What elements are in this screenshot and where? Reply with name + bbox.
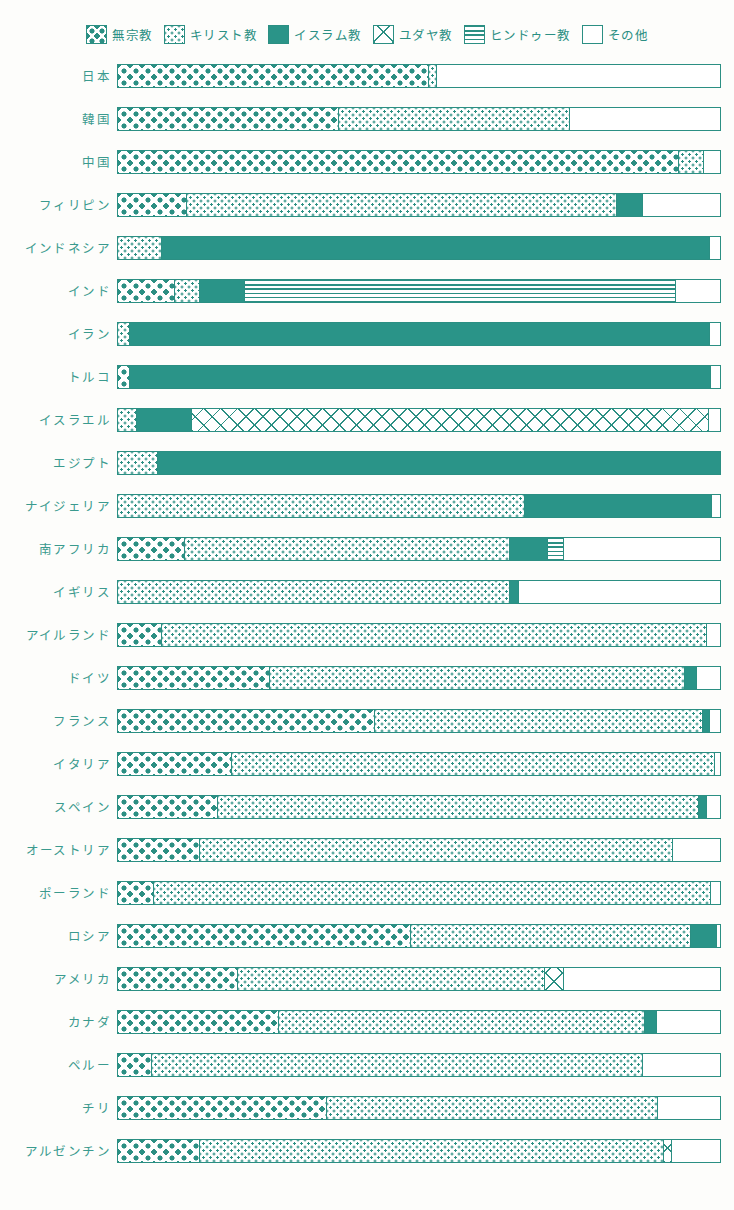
bar-segment-other [671, 1140, 720, 1162]
chart-row: オーストリア [0, 828, 734, 871]
country-label: 日本 [0, 66, 117, 85]
chart-row: エジプト [0, 441, 734, 484]
bar-segment-christian [118, 452, 157, 474]
legend-label: その他 [608, 25, 649, 44]
bar-segment-none [118, 753, 231, 775]
bar-segment-christian [410, 925, 690, 947]
country-label: 南アフリカ [0, 539, 117, 558]
bar-segment-christian [151, 1054, 642, 1076]
chart-row: 南アフリカ [0, 527, 734, 570]
bar-segment-islam [684, 667, 696, 689]
country-label: イラン [0, 324, 117, 343]
bar-segment-christian [118, 409, 136, 431]
bar-segment-islam [524, 495, 711, 517]
chart-row: アイルランド [0, 613, 734, 656]
bar-segment-other [657, 1097, 720, 1119]
bar-segment-none [118, 839, 199, 861]
bar-segment-none [118, 108, 338, 130]
chart-row: 中国 [0, 140, 734, 183]
bar-segment-none [118, 624, 161, 646]
legend-label: ヒンドゥー教 [490, 25, 571, 44]
bar-segment-other [708, 409, 720, 431]
bar-segment-islam [616, 194, 642, 216]
bar-segment-other [706, 624, 720, 646]
horizontal-stripe-swatch [464, 25, 485, 44]
bar-segment-none [118, 1140, 199, 1162]
bar-segment-jewish [191, 409, 708, 431]
stacked-bar [117, 967, 721, 991]
legend-item-hindu: ヒンドゥー教 [464, 25, 571, 44]
chart-row: ペルー [0, 1043, 734, 1086]
chart-row: アルゼンチン [0, 1129, 734, 1172]
stacked-bar [117, 236, 721, 260]
bar-segment-christian [278, 1011, 644, 1033]
bar-segment-christian [231, 753, 714, 775]
stacked-bar [117, 408, 721, 432]
bar-segment-other [714, 753, 720, 775]
chart-row: イギリス [0, 570, 734, 613]
bar-segment-christian [184, 538, 509, 560]
bar-segment-other [675, 280, 720, 302]
bar-segment-islam [136, 409, 191, 431]
chart-row: イタリア [0, 742, 734, 785]
bar-segment-christian [338, 108, 570, 130]
bar-segment-other [642, 1054, 720, 1076]
country-label: ロシア [0, 926, 117, 945]
bar-segment-other [710, 366, 720, 388]
bar-segment-none [118, 366, 129, 388]
chart-row: イスラエル [0, 398, 734, 441]
legend-item-jewish: ユダヤ教 [373, 25, 453, 44]
bar-segment-none [118, 710, 374, 732]
bar-segment-none [118, 538, 184, 560]
stacked-bar [117, 1010, 721, 1034]
stacked-bar [117, 881, 721, 905]
legend-item-none: 無宗教 [86, 25, 153, 44]
bar-segment-none [118, 1011, 278, 1033]
country-label: フィリピン [0, 195, 117, 214]
chart-row: 韓国 [0, 97, 734, 140]
bar-segment-other [706, 796, 720, 818]
bar-segment-christian [118, 495, 524, 517]
bar-segment-islam [199, 280, 244, 302]
bar-segment-hindu [244, 280, 674, 302]
bar-segment-christian [217, 796, 697, 818]
country-label: イタリア [0, 754, 117, 773]
stacked-bar [117, 193, 721, 217]
country-label: ドイツ [0, 668, 117, 687]
stacked-bar [117, 365, 721, 389]
stacked-bar [117, 709, 721, 733]
bar-segment-other [703, 151, 720, 173]
country-label: アルゼンチン [0, 1141, 117, 1160]
bar-segment-other [711, 495, 720, 517]
country-label: チリ [0, 1098, 117, 1117]
stacked-bar [117, 623, 721, 647]
empty-swatch [582, 25, 603, 44]
country-label: ポーランド [0, 883, 117, 902]
bar-segment-islam [509, 581, 518, 603]
stacked-bar-chart: 日本韓国中国フィリピンインドネシアインドイラントルコイスラエルエジプトナイジェリ… [0, 52, 734, 1172]
bar-segment-islam [509, 538, 546, 560]
bar-segment-christian [374, 710, 702, 732]
country-label: イスラエル [0, 410, 117, 429]
stacked-bar [117, 924, 721, 948]
legend-label: キリスト教 [190, 25, 258, 44]
stacked-bar [117, 1053, 721, 1077]
country-label: スペイン [0, 797, 117, 816]
legend-label: ユダヤ教 [399, 25, 453, 44]
stacked-bar [117, 322, 721, 346]
stacked-bar [117, 64, 721, 88]
legend-item-other: その他 [582, 25, 649, 44]
chart-row: フィリピン [0, 183, 734, 226]
country-label: 韓国 [0, 109, 117, 128]
bar-segment-christian [269, 667, 684, 689]
chart-row: ロシア [0, 914, 734, 957]
bar-segment-other [563, 538, 720, 560]
bar-segment-christian [161, 624, 706, 646]
country-label: アイルランド [0, 625, 117, 644]
country-label: トルコ [0, 367, 117, 386]
chart-row: 日本 [0, 54, 734, 97]
bar-segment-other [716, 925, 720, 947]
bar-segment-christian [326, 1097, 657, 1119]
bar-segment-christian [678, 151, 703, 173]
bar-segment-islam [129, 323, 709, 345]
